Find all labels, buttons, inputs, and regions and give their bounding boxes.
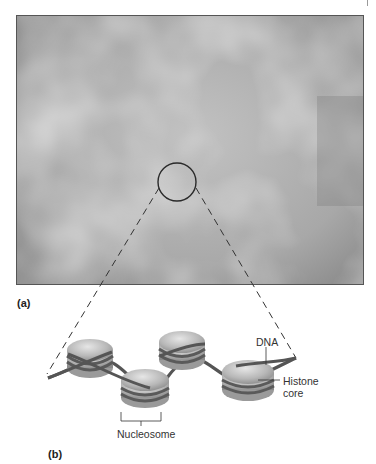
dna-strand-front-3 — [160, 344, 205, 356]
dna-strand-back — [48, 358, 296, 389]
dna-strand-front-1 — [48, 352, 112, 378]
panel-label-b: (b) — [48, 448, 62, 460]
dna-strand-front-2 — [68, 354, 150, 388]
nucleosome-4 — [222, 360, 274, 401]
page-edge-mark — [367, 0, 368, 6]
nucleosome-1 — [67, 339, 113, 378]
panel-label-a: (a) — [17, 297, 30, 309]
histone-label-line2: core — [283, 387, 303, 399]
dna-label: DNA — [256, 336, 278, 348]
histone-label-line1: Histone — [283, 375, 319, 387]
nucleosome-2 — [121, 369, 169, 408]
dna-strand-end — [236, 358, 296, 366]
nucleosome-label: Nucleosome — [117, 428, 175, 440]
nucleosome-bracket — [121, 412, 161, 421]
nucleosome-3 — [159, 331, 205, 370]
electron-micrograph — [16, 15, 364, 285]
